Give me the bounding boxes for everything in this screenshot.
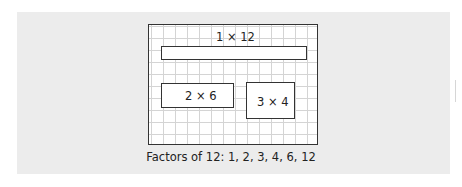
edge-mark — [455, 80, 456, 102]
label-2x6: 2 × 6 — [185, 89, 217, 103]
label-1x12: 1 × 12 — [216, 30, 255, 44]
rectangle-2x6: 2 × 6 — [161, 83, 234, 108]
rectangle-1x12 — [161, 46, 307, 60]
rectangle-3x4: 3 × 4 — [246, 82, 295, 119]
caption: Factors of 12: 1, 2, 3, 4, 6, 12 — [0, 150, 462, 164]
label-3x4: 3 × 4 — [257, 95, 289, 109]
